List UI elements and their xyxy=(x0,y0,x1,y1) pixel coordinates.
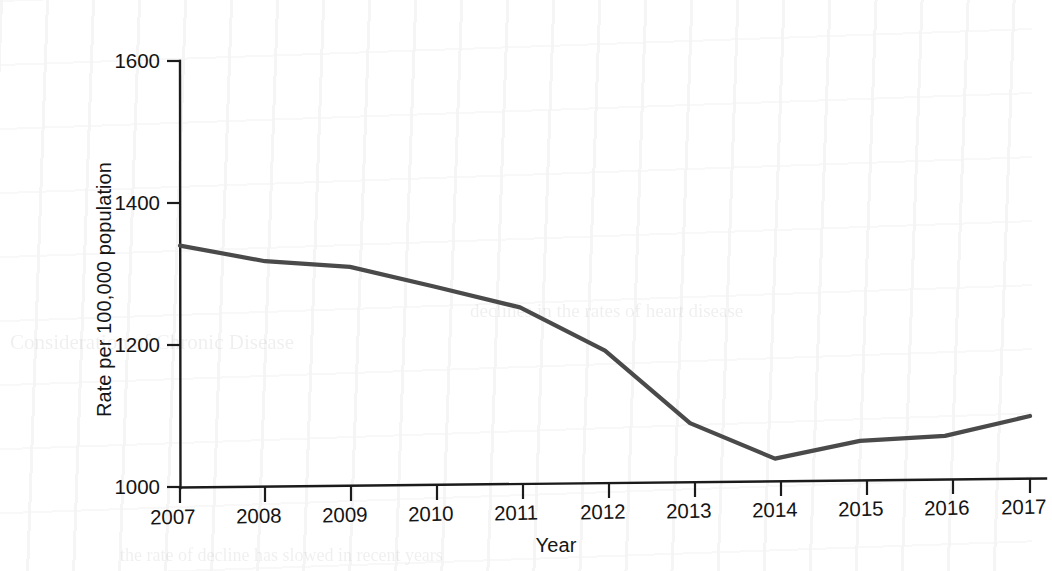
x-tick-label-2016: 2016 xyxy=(924,496,970,521)
y-tick-label-1000: 1000 xyxy=(68,475,160,499)
x-tick-label-2014: 2014 xyxy=(752,498,798,523)
line-chart-figure: 1600 1400 1200 1000 2007 2008 2009 2010 … xyxy=(40,16,992,555)
y-tick-label-1600: 1600 xyxy=(68,49,160,73)
x-tick-label-2011: 2011 xyxy=(494,501,539,526)
chart-plot-area xyxy=(40,16,1052,571)
x-tick-label-2010: 2010 xyxy=(408,502,454,527)
x-tick-label-2009: 2009 xyxy=(322,503,368,528)
x-axis-title: Year xyxy=(40,534,1052,557)
y-axis-line xyxy=(180,61,181,488)
x-tick-label-2007: 2007 xyxy=(150,505,196,530)
x-axis-line xyxy=(180,479,1046,488)
y-axis-title: Rate per 100,000 population xyxy=(93,140,116,440)
x-tick-label-2013: 2013 xyxy=(666,499,712,524)
x-tick-label-2012: 2012 xyxy=(580,500,626,525)
data-series-line xyxy=(180,246,1030,459)
x-tick-label-2015: 2015 xyxy=(838,497,884,522)
x-tick-label-2017: 2017 xyxy=(1001,495,1047,520)
x-tick-label-2008: 2008 xyxy=(236,504,282,529)
